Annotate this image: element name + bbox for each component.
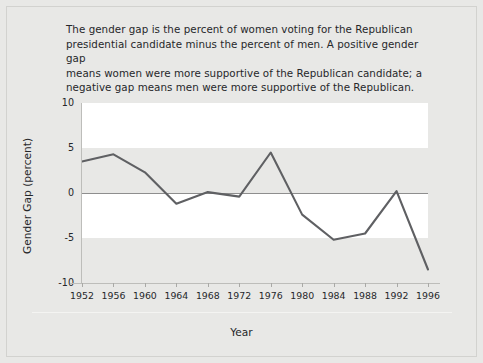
y-axis-title: Gender Gap (percent)	[21, 106, 33, 286]
figure-panel: The gender gap is the percent of women v…	[0, 0, 483, 363]
y-tick-label: 5	[46, 143, 74, 153]
y-axis-ticks: 1050-5-10	[42, 0, 74, 363]
x-axis-title: Year	[0, 326, 483, 338]
x-tick-mark	[208, 283, 209, 287]
x-axis-rule	[32, 312, 452, 313]
x-tick-mark	[239, 283, 240, 287]
y-tick-label: 0	[46, 188, 74, 198]
caption-line-1: The gender gap is the percent of women v…	[66, 22, 432, 37]
x-tick-mark	[271, 283, 272, 287]
x-tick-mark	[176, 283, 177, 287]
x-tick-mark	[428, 283, 429, 287]
x-tick-mark	[145, 283, 146, 287]
plot-area	[82, 103, 428, 283]
x-tick-mark	[82, 283, 83, 287]
x-tick-mark	[365, 283, 366, 287]
caption-line-4: negative gap means men were more support…	[66, 80, 432, 95]
series-line-gender-gap	[82, 103, 428, 283]
caption-line-3: means women were more supportive of the …	[66, 66, 432, 81]
caption-line-2: presidential candidate minus the percent…	[66, 37, 432, 66]
y-axis-line	[81, 103, 82, 283]
chart-caption: The gender gap is the percent of women v…	[66, 22, 432, 95]
y-tick-label: -5	[46, 233, 74, 243]
y-tick-label: 10	[46, 98, 74, 108]
x-tick-mark	[302, 283, 303, 287]
x-axis-line	[70, 283, 440, 284]
x-tick-mark	[334, 283, 335, 287]
x-tick-mark	[397, 283, 398, 287]
x-tick-label: 1996	[408, 291, 448, 300]
x-tick-mark	[113, 283, 114, 287]
